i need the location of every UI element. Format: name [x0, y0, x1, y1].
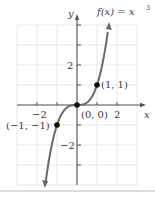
y-axis-label: y	[67, 8, 74, 19]
x-axis-label: x	[144, 109, 150, 120]
y-tick-label: −2	[60, 140, 75, 151]
y-axis-arrow-icon	[75, 14, 79, 20]
point-marker	[74, 102, 80, 108]
axis-labels: −222−2xyf(x) = x3	[32, 4, 150, 151]
axes	[17, 14, 146, 185]
x-tick-label: −2	[32, 109, 47, 120]
x-tick-label: 2	[114, 109, 120, 120]
point-marker	[94, 82, 100, 88]
curve-arrow-up-icon	[106, 22, 112, 30]
point-label: (0, 0)	[81, 109, 108, 120]
cubic-function-graph: (−1, −1)(0, 0)(1, 1) −222−2xyf(x) = x3	[0, 0, 155, 198]
point-label: (−1, −1)	[6, 120, 50, 131]
y-tick-label: 2	[67, 60, 73, 71]
point-label: (1, 1)	[101, 79, 128, 90]
point-marker	[54, 122, 60, 128]
x-axis-arrow-icon	[140, 103, 146, 107]
function-label: f(x) = x	[96, 6, 135, 17]
curve-arrow-down-icon	[42, 180, 48, 188]
function-exponent: 3	[146, 4, 150, 12]
